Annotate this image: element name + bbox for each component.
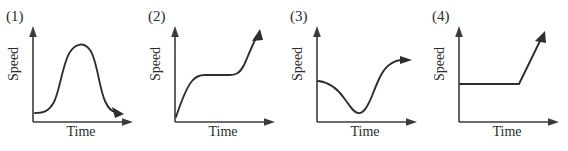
x-axis-arrowhead-icon bbox=[264, 118, 275, 126]
graph-option-2[interactable]: (2) Speed Time bbox=[142, 0, 284, 151]
curve-arrowhead-icon bbox=[400, 56, 412, 64]
curve-group-1 bbox=[35, 45, 124, 118]
graph-option-1[interactable]: (1) Speed Time bbox=[0, 0, 142, 151]
graph-option-4[interactable]: (4) Speed Time bbox=[426, 0, 568, 151]
curve-arrowhead-icon bbox=[535, 31, 546, 43]
axes-3 bbox=[313, 26, 417, 126]
curve-arrowhead-icon bbox=[112, 107, 124, 118]
y-axis-arrowhead-icon bbox=[29, 26, 37, 37]
curve-group-2 bbox=[176, 29, 263, 117]
x-axis-arrowhead-icon bbox=[548, 118, 559, 126]
speed-time-curve-1 bbox=[35, 45, 116, 113]
graph-plot-3 bbox=[284, 0, 426, 151]
curve-group-4 bbox=[460, 31, 546, 84]
y-axis-arrowhead-icon bbox=[171, 26, 179, 37]
curve-arrowhead-icon bbox=[252, 29, 263, 41]
graph-option-3[interactable]: (3) Speed Time bbox=[284, 0, 426, 151]
speed-time-curve-2 bbox=[176, 38, 256, 117]
y-axis-arrowhead-icon bbox=[455, 26, 463, 37]
speed-time-curve-3 bbox=[318, 60, 403, 113]
graph-plot-4 bbox=[426, 0, 568, 151]
x-axis-arrowhead-icon bbox=[406, 118, 417, 126]
graph-plot-2 bbox=[142, 0, 284, 151]
speed-time-curve-4 bbox=[460, 41, 540, 84]
graph-plot-1 bbox=[0, 0, 142, 151]
y-axis-arrowhead-icon bbox=[313, 26, 321, 37]
graph-options-row: (1) Speed Time (2) Speed Time bbox=[0, 0, 568, 151]
x-axis-arrowhead-icon bbox=[122, 118, 133, 126]
curve-group-3 bbox=[318, 56, 412, 113]
